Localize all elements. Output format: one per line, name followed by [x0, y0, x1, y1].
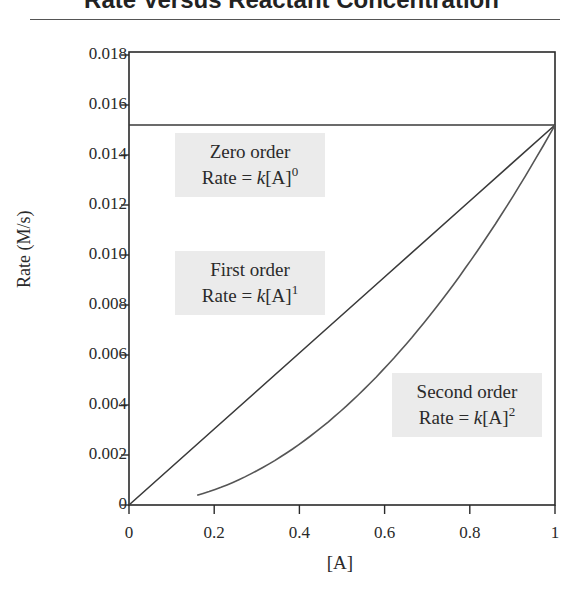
y-tick-label: 0.016	[89, 94, 127, 114]
annotation-equation: Rate = k[A]1	[175, 283, 325, 309]
x-tick-label: 0.4	[269, 523, 329, 543]
y-tick-label: 0.008	[89, 294, 127, 314]
y-tick-label: 0.002	[89, 444, 127, 464]
y-tick-label: 0.006	[89, 344, 127, 364]
y-tick-label: 0.014	[89, 144, 127, 164]
annotation-second-order: Second order Rate = k[A]2	[392, 373, 542, 437]
x-tick-label: 0	[99, 523, 159, 543]
y-tick-label: 0	[119, 494, 128, 514]
annotation-equation: Rate = k[A]2	[392, 405, 542, 431]
x-tick-label: 1	[525, 523, 583, 543]
x-tick-label: 0.8	[440, 523, 500, 543]
y-tick-label: 0.010	[89, 244, 127, 264]
annotation-title: First order	[175, 257, 325, 283]
annotation-zero-order: Zero order Rate = k[A]0	[175, 133, 325, 197]
x-tick-label: 0.2	[184, 523, 244, 543]
x-axis-label: [A]	[310, 552, 370, 574]
y-tick-label: 0.004	[89, 394, 127, 414]
y-axis-label: Rate (M/s)	[14, 211, 35, 288]
annotation-title: Zero order	[175, 139, 325, 165]
x-tick-label: 0.6	[355, 523, 415, 543]
y-tick-label: 0.012	[89, 194, 127, 214]
annotation-title: Second order	[392, 379, 542, 405]
annotation-first-order: First order Rate = k[A]1	[175, 251, 325, 315]
annotation-equation: Rate = k[A]0	[175, 165, 325, 191]
y-tick-label: 0.018	[89, 44, 127, 64]
